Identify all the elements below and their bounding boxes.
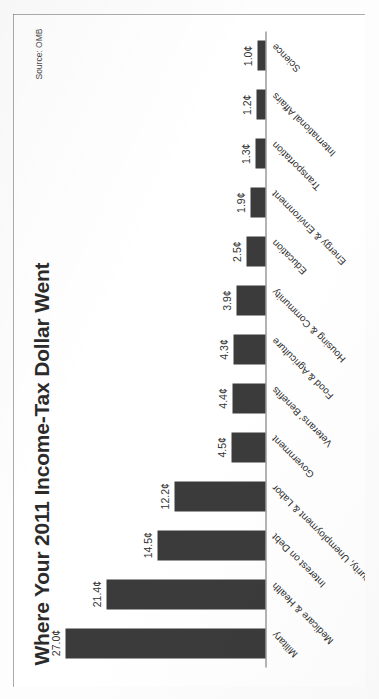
bar-value-label: 3.9¢	[220, 290, 232, 310]
bar-value-label: 1.3¢	[239, 143, 251, 163]
bar[interactable]	[236, 285, 265, 315]
scanned-page: Where Your 2011 Income-Tax Dollar Went S…	[0, 0, 379, 699]
category-label: Science	[269, 42, 302, 75]
bar[interactable]	[255, 138, 265, 168]
bar-value-label: 4.3¢	[217, 339, 229, 359]
bar-value-label: 14.5¢	[141, 532, 153, 558]
bar-value-label: 12.2¢	[158, 483, 170, 509]
bar[interactable]	[174, 481, 264, 511]
bar[interactable]	[106, 579, 265, 609]
bar-value-label: 1.9¢	[234, 192, 246, 212]
source-note: Source: OMB	[33, 28, 43, 79]
bar[interactable]	[231, 432, 264, 462]
category-label: Transportation	[269, 140, 322, 193]
bar[interactable]	[232, 383, 265, 413]
bar-value-label: 2.5¢	[230, 241, 242, 261]
bar-chart: Where Your 2011 Income-Tax Dollar Went S…	[13, 14, 365, 687]
category-label-layer: MilitaryMedicare & HealthInterest on Deb…	[269, 31, 359, 667]
bar-value-label: 21.4¢	[90, 580, 102, 606]
bar-value-label: 1.0¢	[241, 45, 253, 65]
rotated-chart-viewport: Where Your 2011 Income-Tax Dollar Went S…	[13, 14, 365, 687]
bar[interactable]	[157, 530, 264, 560]
plot-area: 27.0¢21.4¢14.5¢12.2¢4.5¢4.4¢4.3¢3.9¢2.5¢…	[66, 31, 266, 667]
bar[interactable]	[65, 628, 265, 658]
bar-value-label: 4.4¢	[216, 388, 228, 408]
category-label: Military	[269, 629, 299, 659]
bar-value-label: 27.0¢	[49, 629, 61, 655]
bar[interactable]	[233, 334, 265, 364]
bar[interactable]	[246, 236, 265, 266]
bar[interactable]	[257, 40, 264, 70]
chart-title: Where Your 2011 Income-Tax Dollar Went	[29, 262, 53, 665]
bar-value-label: 4.5¢	[215, 437, 227, 457]
bar[interactable]	[250, 187, 264, 217]
bar[interactable]	[256, 89, 265, 119]
category-axis-line	[265, 31, 267, 667]
category-label: Education	[269, 237, 308, 276]
category-label: Government	[269, 433, 316, 480]
bar-value-label: 1.2¢	[240, 94, 252, 114]
